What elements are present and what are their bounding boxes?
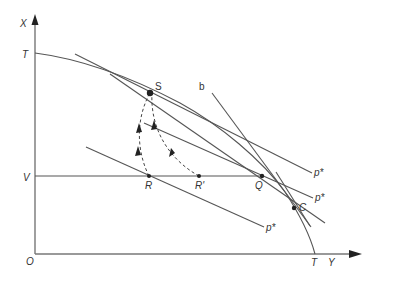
label-s: S [155,81,162,92]
production-possibility-diagram: X Y O T T V S b R R' Q C p* p* p* [0,0,401,283]
label-r-prime: R' [195,180,205,191]
point-r-prime [197,174,201,178]
point-c [292,206,296,210]
axis-label-x: X [19,18,27,29]
price-line-low [86,147,264,227]
label-b: b [199,81,205,92]
label-r: R [145,180,152,191]
label-p-star-low: p* [265,222,277,233]
origin-label: O [26,256,34,267]
axes [32,14,363,258]
price-line-top [75,54,312,173]
tangent-line-c [276,172,310,226]
tangent-line-s [110,74,325,223]
point-q [260,174,264,178]
axis-label-y: Y [328,257,336,268]
label-p-star-mid: p* [314,192,326,203]
point-s [147,90,153,96]
adjustment-path-r [139,93,150,176]
label-q: Q [255,180,263,191]
horizontal-axis-arrow-icon [349,250,362,258]
adjustment-path-r-prime [152,93,199,176]
label-t-horizontal: T [311,257,318,268]
label-t-vertical: T [22,49,29,60]
label-c: C [299,202,307,213]
arrow-icon [169,148,175,157]
label-p-star-top: p* [313,167,325,178]
vertical-axis-arrow-icon [32,14,39,25]
arrow-icon [136,123,142,133]
point-r [147,174,151,178]
label-v: V [23,172,31,183]
